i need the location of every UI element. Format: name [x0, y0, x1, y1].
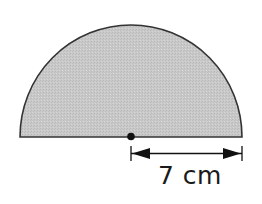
radius-label: 7 cm [158, 161, 222, 190]
arrowhead-right-icon [223, 148, 241, 159]
semicircle-shape [20, 25, 242, 137]
center-point [127, 133, 135, 141]
arrowhead-left-icon [132, 148, 150, 159]
semicircle-diagram [0, 0, 262, 204]
radius-dimension-line [131, 146, 242, 161]
